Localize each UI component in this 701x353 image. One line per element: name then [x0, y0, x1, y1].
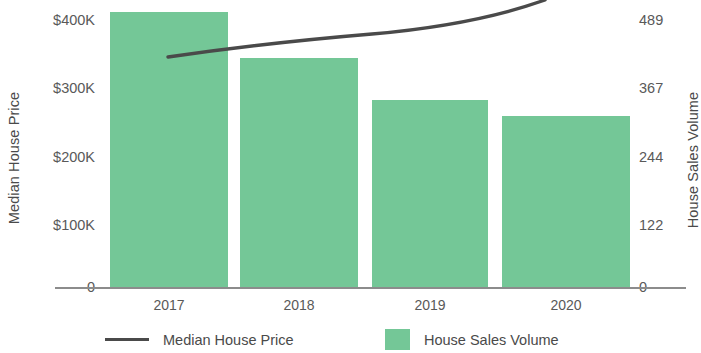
- x-axis-baseline: [55, 287, 686, 289]
- bar-2017[interactable]: [110, 12, 228, 287]
- legend-swatch-marker-icon: [385, 329, 410, 350]
- legend-label-house-sales-volume: House Sales Volume: [424, 332, 559, 348]
- plot-area: [0, 0, 696, 288]
- legend-label-median-house-price: Median House Price: [163, 332, 294, 348]
- x-axis-tick-label: 2018: [240, 297, 358, 313]
- x-axis-tick-label: 2019: [372, 297, 488, 313]
- bar-2018[interactable]: [240, 58, 358, 287]
- legend-item-median-house-price[interactable]: Median House Price: [105, 326, 294, 353]
- bar-2019[interactable]: [372, 100, 488, 287]
- chart-legend: Median House Price House Sales Volume: [0, 326, 696, 353]
- x-axis-tick-label: 2020: [502, 297, 630, 313]
- legend-line-marker-icon: [105, 338, 149, 341]
- bar-2020[interactable]: [502, 116, 630, 287]
- legend-item-house-sales-volume[interactable]: House Sales Volume: [385, 326, 559, 353]
- x-axis-tick-label: 2017: [110, 297, 228, 313]
